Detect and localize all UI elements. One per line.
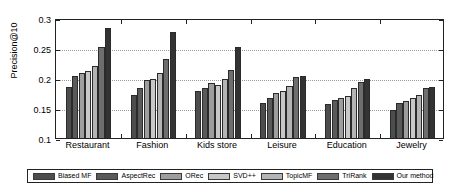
bar (410, 98, 416, 138)
bar (235, 47, 241, 138)
x-tick-mark-top (315, 20, 316, 24)
legend-label: ORec (185, 172, 203, 180)
bar (416, 95, 422, 138)
bar (98, 47, 104, 138)
bar (170, 32, 176, 138)
y-tick-mark (56, 20, 60, 21)
bar (85, 71, 91, 138)
precision-at-10-bar-chart: 0.10.150.20.250.3 Precision@10 Restauran… (0, 0, 459, 193)
bar (429, 87, 435, 138)
bar (358, 82, 364, 138)
y-tick-label: 0.2 (38, 76, 51, 85)
legend-label: TriRank (342, 172, 366, 180)
y-tick-mark (439, 110, 443, 111)
x-tick-mark-top (186, 20, 187, 24)
bar (260, 103, 266, 138)
x-tick-label: Leisure (267, 140, 297, 150)
legend-swatch (33, 173, 55, 180)
x-tick-mark-top (380, 20, 381, 24)
x-tick-mark (186, 134, 187, 138)
bar (267, 98, 273, 138)
legend: Biased MFAspectRecORecSVD++TopicMFTriRan… (27, 169, 433, 183)
y-tick-mark (439, 20, 443, 21)
y-tick-mark (56, 50, 60, 51)
bar (208, 83, 214, 138)
x-tick-label: Restaurant (65, 140, 109, 150)
legend-entry: TriRank (312, 170, 366, 182)
x-tick-mark (315, 134, 316, 138)
legend-entry: SVD++ (203, 170, 256, 182)
y-tick-mark (56, 110, 60, 111)
y-tick-label: 0.25 (33, 46, 51, 55)
legend-swatch (372, 173, 394, 180)
bar (293, 77, 299, 138)
bar (423, 88, 429, 138)
legend-entry: Biased MF (28, 170, 91, 182)
x-tick-label: Jewelry (396, 140, 427, 150)
y-tick-mark (56, 80, 60, 81)
bar (228, 70, 234, 138)
bar (92, 66, 98, 138)
bar (72, 76, 78, 138)
x-tick-label: Kids store (197, 140, 237, 150)
x-tick-label: Fashion (136, 140, 168, 150)
bar (351, 88, 357, 138)
bar (195, 91, 201, 138)
bar (364, 79, 370, 138)
bar (338, 98, 344, 138)
bar (332, 100, 338, 138)
bar (280, 91, 286, 138)
bar (396, 103, 402, 138)
legend-label: SVD++ (233, 172, 256, 180)
x-tick-mark (251, 134, 252, 138)
legend-entry: TopicMF (256, 170, 312, 182)
bar (286, 86, 292, 138)
legend-label: AspectRec (121, 172, 155, 180)
legend-entry: AspectRec (91, 170, 155, 182)
legend-swatch (96, 173, 118, 180)
legend-swatch (160, 173, 182, 180)
bar (300, 76, 306, 138)
legend-entry: ORec (155, 170, 203, 182)
plot-area (55, 19, 444, 139)
bar (163, 59, 169, 138)
legend-label: Our method (397, 172, 434, 180)
bar (131, 95, 137, 138)
bar (273, 93, 279, 138)
x-tick-mark-top (251, 20, 252, 24)
bar (345, 96, 351, 138)
legend-label: Biased MF (58, 172, 91, 180)
legend-swatch (208, 173, 230, 180)
x-tick-mark (380, 134, 381, 138)
bar (157, 73, 163, 138)
bar (137, 88, 143, 138)
gridline (56, 80, 443, 81)
bar (66, 87, 72, 138)
gridline (56, 110, 443, 111)
y-tick-label: 0.15 (33, 106, 51, 115)
gridline (56, 50, 443, 51)
bar (403, 101, 409, 138)
x-axis-labels: RestaurantFashionKids storeLeisureEducat… (55, 140, 444, 154)
legend-entry: Our method (367, 170, 434, 182)
legend-swatch (317, 173, 339, 180)
y-tick-label: 0.1 (38, 136, 51, 145)
bar (105, 28, 111, 138)
x-tick-mark (121, 134, 122, 138)
bar (222, 79, 228, 138)
x-tick-mark-top (121, 20, 122, 24)
x-tick-label: Education (327, 140, 367, 150)
y-tick-mark (439, 50, 443, 51)
y-tick-label: 0.3 (38, 16, 51, 25)
bar (79, 73, 85, 138)
legend-label: TopicMF (286, 172, 312, 180)
bar (215, 85, 221, 138)
bar (325, 104, 331, 138)
bar (202, 88, 208, 138)
bar (390, 110, 396, 138)
y-tick-mark (439, 80, 443, 81)
bar (144, 80, 150, 138)
legend-swatch (261, 173, 283, 180)
y-axis-title: Precision@10 (10, 6, 19, 96)
bar (150, 79, 156, 138)
